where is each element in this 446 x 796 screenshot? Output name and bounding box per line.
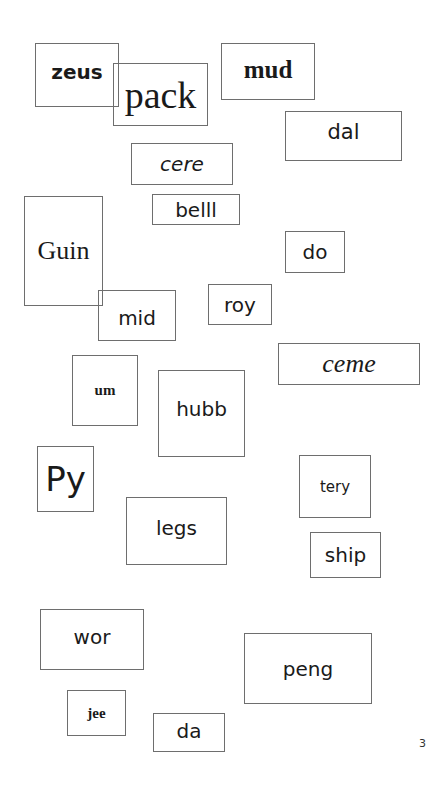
word-box-jee: jee xyxy=(67,690,126,736)
word-text: mid xyxy=(118,306,156,330)
word-text: do xyxy=(303,240,328,264)
word-box-do: do xyxy=(285,231,345,273)
word-box-tery: tery xyxy=(299,455,371,518)
word-text: da xyxy=(177,719,202,743)
word-box-zeus: zeus xyxy=(35,43,119,107)
word-box-guin: Guin xyxy=(24,196,103,306)
word-text: Py xyxy=(45,459,86,499)
word-text: belll xyxy=(175,198,217,222)
word-text: pack xyxy=(125,73,197,117)
page-number: 3 xyxy=(419,737,426,750)
word-text: zeus xyxy=(51,60,102,84)
word-text: um xyxy=(95,382,116,399)
word-box-da: da xyxy=(153,713,225,752)
word-text: ceme xyxy=(322,349,375,379)
word-text: Guin xyxy=(38,236,90,266)
word-text: roy xyxy=(224,293,256,317)
word-text: dal xyxy=(327,120,359,144)
word-text: hubb xyxy=(176,397,227,421)
word-box-pack: pack xyxy=(113,63,208,126)
word-box-cere: cere xyxy=(131,143,233,185)
word-text: wor xyxy=(74,625,111,649)
word-box-um: um xyxy=(72,355,138,426)
word-text: jee xyxy=(87,705,105,722)
word-box-mud: mud xyxy=(221,43,315,100)
word-text: mud xyxy=(244,56,293,84)
word-box-mid: mid xyxy=(98,290,176,341)
word-box-py: Py xyxy=(37,446,94,512)
word-text: tery xyxy=(320,478,350,496)
word-text: ship xyxy=(325,543,366,567)
document-page: zeus pack mud dal cere belll Guin do mid… xyxy=(0,0,446,796)
word-box-hubb: hubb xyxy=(158,370,245,457)
word-box-dal: dal xyxy=(285,111,402,161)
word-box-ship: ship xyxy=(310,532,381,578)
word-box-ceme: ceme xyxy=(278,343,420,385)
word-box-belll: belll xyxy=(152,194,240,225)
word-box-roy: roy xyxy=(208,284,272,325)
word-text: cere xyxy=(160,152,204,176)
word-box-legs: legs xyxy=(126,497,227,565)
word-box-wor: wor xyxy=(40,609,144,670)
word-text: legs xyxy=(156,516,197,540)
word-box-peng: peng xyxy=(244,633,372,704)
word-text: peng xyxy=(283,657,333,681)
